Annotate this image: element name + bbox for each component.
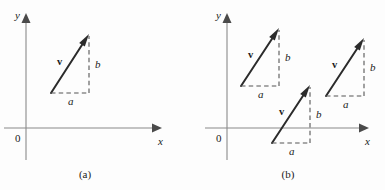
component-b-label: b — [316, 108, 322, 120]
panel-a-vector-1: v a b — [51, 34, 101, 107]
panel-b-axes: 0 x y — [205, 9, 370, 160]
panel-b-caption: (b) — [282, 168, 295, 181]
component-a-label: a — [343, 98, 349, 110]
panel-a-x-axis-label: x — [157, 135, 163, 147]
panel-b-x-axis-arrowhead — [359, 124, 369, 133]
panel-b-vector-2: v a b — [272, 85, 322, 157]
vector-arrowhead — [79, 34, 89, 47]
component-a-label: a — [258, 88, 264, 100]
component-b-label: b — [370, 61, 376, 73]
panel-a-axes: 0 x y — [4, 9, 163, 160]
panel-b-origin-label: 0 — [216, 132, 222, 144]
vector-shaft — [272, 91, 307, 144]
vector-label: v — [332, 59, 338, 70]
vector-label: v — [248, 49, 254, 60]
panel-b-y-axis-label: y — [215, 9, 221, 21]
vector-arrowhead — [300, 85, 310, 98]
panel-a-caption: (a) — [79, 168, 92, 181]
panel-a-origin-label: 0 — [15, 132, 21, 144]
vector-components-figure: 0 x y v a b (a) 0 x — [0, 0, 385, 190]
panel-b-vector-3: v a b — [326, 38, 376, 110]
panel-a-y-axis-label: y — [14, 9, 20, 21]
panel-a-y-axis-arrowhead — [22, 13, 31, 23]
figure-canvas: 0 x y v a b (a) 0 x — [0, 0, 385, 190]
vector-label: v — [279, 106, 285, 117]
component-b-label: b — [95, 58, 101, 70]
panel-b: 0 x y v a b v a b — [205, 9, 376, 181]
component-a-label: a — [289, 145, 295, 157]
panel-a-x-axis-arrowhead — [152, 124, 162, 133]
panel-a: 0 x y v a b (a) — [4, 9, 163, 181]
vector-arrowhead — [269, 28, 279, 41]
vector-arrowhead — [354, 38, 364, 51]
component-b-label: b — [285, 51, 291, 63]
component-a-label: a — [68, 95, 74, 107]
panel-b-x-axis-label: x — [364, 135, 370, 147]
panel-b-y-axis-arrowhead — [223, 13, 232, 23]
panel-b-vector-1: v a b — [241, 28, 291, 100]
vector-label: v — [57, 56, 63, 67]
vector-shaft — [241, 34, 276, 87]
